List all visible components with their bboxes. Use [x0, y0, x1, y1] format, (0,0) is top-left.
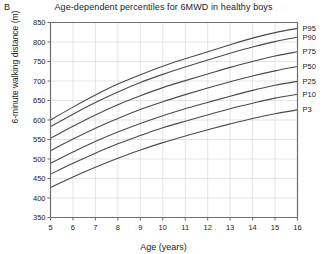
x-tick-label: 7 — [93, 223, 97, 232]
x-tick-label: 9 — [138, 223, 142, 232]
x-tick-label: 12 — [204, 223, 212, 232]
curve-p50 — [51, 67, 298, 151]
series-label-p50: P50 — [303, 62, 316, 71]
x-tick-label: 6 — [71, 223, 75, 232]
y-tick-label: 700 — [33, 77, 46, 86]
curve-p75 — [51, 52, 298, 139]
chart-container: B Age-dependent percentiles for 6MWD in … — [0, 0, 327, 254]
series-label-p95: P95 — [303, 24, 316, 33]
y-tick-label: 450 — [33, 174, 46, 183]
x-axis-title: Age (years) — [0, 242, 327, 252]
y-tick-label: 350 — [33, 213, 46, 222]
y-tick-label: 850 — [33, 18, 46, 27]
percentile-line-chart: 350400450500550600650700750800850 567891… — [0, 0, 327, 254]
y-tick-label: 750 — [33, 57, 46, 66]
y-tick-label: 500 — [33, 155, 46, 164]
x-tick-label: 14 — [248, 223, 256, 232]
curve-p90 — [51, 37, 298, 126]
series-label-p90: P90 — [303, 33, 316, 42]
x-tick-label: 5 — [48, 223, 52, 232]
y-axis-title: 6-minute walking distance (m) — [10, 0, 20, 137]
x-tick-label: 13 — [226, 223, 234, 232]
y-tick-label: 650 — [33, 96, 46, 105]
y-tick-label: 400 — [33, 194, 46, 203]
x-tick-labels: 5678910111213141516 — [48, 223, 301, 232]
series-label-p10: P10 — [303, 90, 316, 99]
x-tick-label: 10 — [159, 223, 167, 232]
x-tick-label: 15 — [271, 223, 279, 232]
tick-marks — [48, 23, 298, 221]
curve-p3 — [51, 110, 298, 188]
series-label-p75: P75 — [303, 47, 316, 56]
percentile-curves — [51, 28, 298, 187]
chart-title: Age-dependent percentiles for 6MWD in he… — [0, 2, 327, 12]
series-labels: P95P90P75P50P25P10P3 — [303, 24, 316, 115]
gridlines — [51, 23, 298, 218]
y-tick-labels: 350400450500550600650700750800850 — [33, 18, 46, 222]
x-tick-label: 8 — [116, 223, 120, 232]
y-tick-label: 550 — [33, 135, 46, 144]
series-label-p25: P25 — [303, 77, 316, 86]
x-tick-label: 11 — [181, 223, 189, 232]
y-tick-label: 600 — [33, 116, 46, 125]
curve-p25 — [51, 81, 298, 163]
x-tick-label: 16 — [293, 223, 301, 232]
y-tick-label: 800 — [33, 38, 46, 47]
series-label-p3: P3 — [303, 105, 312, 114]
